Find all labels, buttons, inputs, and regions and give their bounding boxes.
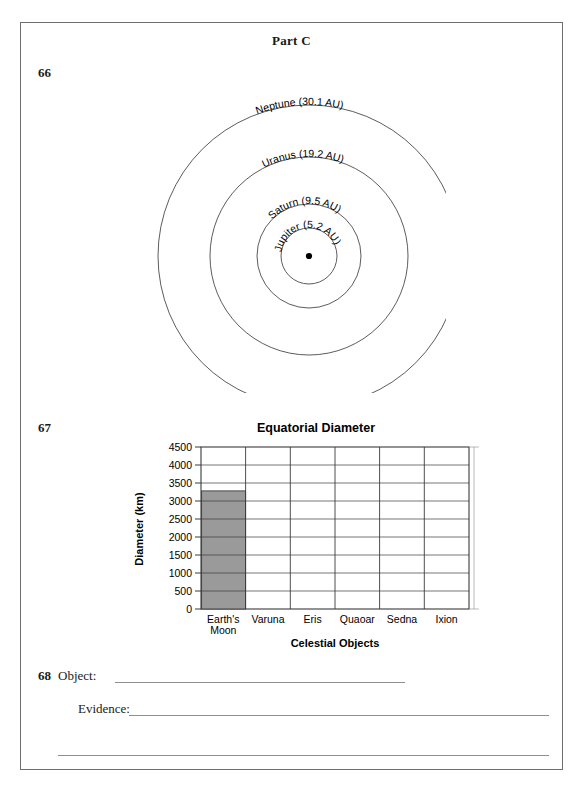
orbit-circle-neptune: [158, 105, 446, 393]
chart-svg: Diameter (km): [131, 437, 481, 651]
orbit-label-neptune-text: Neptune (30.1 AU): [254, 95, 345, 116]
chart-xtick-label-sedna: Sedna: [387, 613, 418, 625]
chart-xtick-label-earths-moon-line2: Moon: [210, 624, 236, 636]
chart-ytick-label: 0: [186, 603, 192, 615]
question-number-68: 68: [38, 668, 51, 684]
chart-xtick-label-ixion: Ixion: [436, 613, 458, 625]
chart-ytick-label: 3000: [169, 495, 193, 507]
chart-ytick-label: 1000: [169, 567, 193, 579]
question-number-66: 66: [38, 65, 51, 81]
chart-ytick-label: 4000: [169, 459, 193, 471]
chart-right-tick-rail: [469, 447, 479, 609]
question-number-67: 67: [38, 420, 51, 436]
orbit-diagram: Neptune (30.1 AU) Uranus (19.2 AU) Satur…: [116, 53, 446, 393]
worksheet-page-frame: Part C 66 67 68 Neptune (30.1 AU) Uranus…: [20, 22, 563, 770]
chart-ytick-label: 3500: [169, 477, 193, 489]
chart-title: Equatorial Diameter: [176, 421, 456, 435]
chart-ytick-label: 500: [174, 585, 192, 597]
chart-xtick-label-quaoar: Quaoar: [340, 613, 376, 625]
page-title: Part C: [21, 33, 562, 49]
orbit-label-saturn: Saturn (9.5 AU): [265, 194, 344, 221]
orbit-label-uranus-text: Uranus (19.2 AU): [260, 147, 346, 170]
orbit-label-saturn-text: Saturn (9.5 AU): [265, 194, 344, 221]
orbit-diagram-svg: Neptune (30.1 AU) Uranus (19.2 AU) Satur…: [116, 53, 446, 393]
chart-ytick-labels: 4500 4000 3500 3000 2500 2000 1500 1000 …: [169, 441, 193, 615]
sun-dot-icon: [306, 253, 312, 259]
chart-xtick-labels: Earth's Moon Varuna Eris Quaoar Sedna Ix…: [207, 613, 458, 636]
object-answer-line[interactable]: [115, 682, 405, 683]
chart-ytick-label: 1500: [169, 549, 193, 561]
evidence-label: Evidence:: [78, 701, 130, 717]
chart-xtick-label-varuna: Varuna: [251, 613, 284, 625]
orbit-label-jupiter-text: Jupiter (5.2 AU): [271, 218, 344, 253]
evidence-answer-line-1[interactable]: [129, 715, 549, 716]
chart-ytick-label: 2500: [169, 513, 193, 525]
chart-xtick-label-eris: Eris: [304, 613, 322, 625]
evidence-answer-line-2[interactable]: [58, 755, 549, 756]
chart-ytick-marks: [195, 447, 201, 609]
orbit-label-jupiter: Jupiter (5.2 AU): [271, 218, 344, 253]
chart-ytick-label: 4500: [169, 441, 193, 453]
chart-ytick-label: 2000: [169, 531, 193, 543]
chart-xlabel: Celestial Objects: [291, 637, 380, 649]
object-label: Object:: [58, 668, 96, 684]
equatorial-diameter-chart: Equatorial Diameter Diameter (km): [131, 421, 481, 651]
orbit-label-uranus: Uranus (19.2 AU): [260, 147, 346, 170]
chart-ylabel: Diameter (km): [133, 492, 145, 566]
orbit-label-neptune: Neptune (30.1 AU): [254, 95, 345, 116]
